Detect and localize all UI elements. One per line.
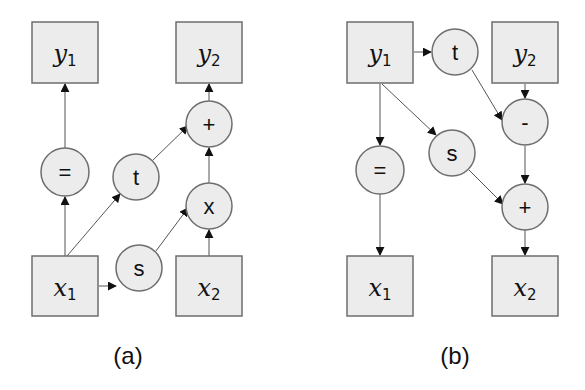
edge-s-to-times bbox=[156, 208, 188, 251]
node-times-label: x bbox=[204, 194, 215, 219]
edge-t-to-plus bbox=[153, 126, 188, 160]
box-y2-b: y2 bbox=[492, 22, 558, 83]
node-s-b-label: s bbox=[447, 141, 458, 166]
edge-y1-to-s bbox=[382, 84, 436, 135]
caption-a: (a) bbox=[113, 342, 142, 369]
node-identity-b-label: = bbox=[374, 158, 387, 183]
panel-b: y1 y2 x1 x2 t - = s bbox=[347, 22, 558, 369]
box-y1-b: y1 bbox=[347, 22, 413, 83]
box-y2: y2 bbox=[176, 22, 242, 83]
edge-x1-to-t bbox=[67, 194, 120, 256]
node-plus-b: + bbox=[502, 184, 548, 230]
node-t-b-label: t bbox=[452, 40, 458, 65]
box-x1: x1 bbox=[32, 256, 98, 316]
coupling-layer-diagram: y1 y2 x1 x2 = t + x bbox=[0, 0, 585, 390]
node-s-label: s bbox=[134, 256, 145, 281]
box-y1: y1 bbox=[32, 22, 98, 83]
box-x2: x2 bbox=[176, 256, 242, 316]
edge-s-to-plus bbox=[469, 170, 503, 204]
node-t-b: t bbox=[432, 29, 478, 75]
node-times: x bbox=[186, 183, 232, 229]
node-minus-b: - bbox=[502, 99, 548, 145]
node-s: s bbox=[116, 245, 162, 291]
node-plus-b-label: + bbox=[519, 195, 532, 220]
node-identity-b: = bbox=[356, 146, 404, 194]
node-plus-label: + bbox=[203, 112, 216, 137]
node-minus-b-label: - bbox=[521, 110, 528, 135]
box-x1-b: x1 bbox=[347, 256, 413, 316]
node-plus: + bbox=[186, 101, 232, 147]
box-x2-b: x2 bbox=[492, 256, 558, 316]
node-identity-label: = bbox=[59, 160, 72, 185]
panel-a: y1 y2 x1 x2 = t + x bbox=[32, 22, 242, 369]
node-s-b: s bbox=[429, 130, 475, 176]
node-identity: = bbox=[41, 148, 89, 196]
caption-b: (b) bbox=[440, 342, 469, 369]
node-t-label: t bbox=[133, 165, 139, 190]
node-t: t bbox=[113, 154, 159, 200]
